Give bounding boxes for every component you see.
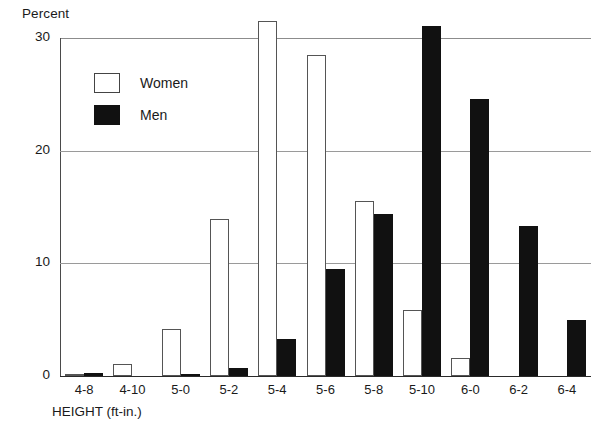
- bar-women-5-4: [258, 21, 277, 376]
- bar-women-5-10: [403, 310, 422, 376]
- x-axis-title: HEIGHT (ft-in.): [52, 404, 142, 419]
- bar-women-4-10: [113, 364, 132, 376]
- bar-women-5-2: [210, 219, 229, 376]
- y-tick-label: 10: [10, 254, 50, 269]
- x-tick-label-6-4: 6-4: [537, 382, 597, 397]
- bar-men-6-4: [567, 320, 586, 376]
- bar-men-5-4: [277, 339, 296, 376]
- bar-men-5-2: [229, 368, 248, 376]
- y-tick-label: 0: [10, 367, 50, 382]
- bar-women-5-6: [307, 55, 326, 376]
- bar-men-6-2: [519, 226, 538, 376]
- bar-women-6-0: [451, 358, 470, 376]
- y-tick-label: 20: [10, 142, 50, 157]
- gridline: [60, 263, 591, 264]
- bar-men-5-8: [374, 214, 393, 376]
- legend-swatch-women-icon: [94, 73, 120, 93]
- bar-men-6-0: [470, 99, 489, 376]
- bar-women-5-0: [162, 329, 181, 376]
- gridline: [60, 151, 591, 152]
- legend-label-men: Men: [140, 105, 167, 125]
- x-axis-line: [60, 376, 591, 377]
- y-axis-title: Percent: [22, 6, 69, 21]
- legend-label-women: Women: [140, 73, 188, 93]
- height-distribution-bar-chart: Percent 0102030 4-84-105-05-25-45-65-85-…: [0, 0, 607, 437]
- y-tick-label: 30: [10, 29, 50, 44]
- bar-women-5-8: [355, 201, 374, 376]
- bar-men-5-6: [326, 269, 345, 376]
- legend-swatch-men-icon: [94, 105, 120, 125]
- bar-men-5-10: [422, 26, 441, 376]
